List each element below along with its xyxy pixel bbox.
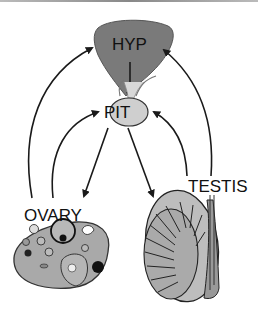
testis-illustration bbox=[139, 186, 226, 307]
ovary-to-hyp-arrow bbox=[29, 48, 92, 198]
hypothalamus-label: HYP bbox=[112, 35, 147, 55]
pit-to-testis-arrow bbox=[128, 128, 153, 196]
ovary-label: OVARY bbox=[24, 206, 82, 226]
testis-to-pit-arrow bbox=[154, 112, 187, 176]
ovary-illustration bbox=[14, 219, 109, 288]
pituitary-label: PIT bbox=[104, 103, 130, 123]
testis-to-hyp-arrow bbox=[164, 50, 212, 176]
pit-to-ovary-arrow bbox=[84, 128, 108, 196]
testis-label: TESTIS bbox=[188, 177, 248, 197]
ovary-to-pit-arrow bbox=[52, 112, 98, 198]
